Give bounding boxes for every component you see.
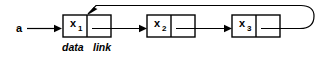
node-2-data-subscript: 2	[162, 24, 167, 33]
linked-list-diagram: a x 1 x 2	[0, 0, 324, 57]
node-3: x 3	[232, 15, 280, 37]
head-pointer-label: a	[16, 22, 23, 34]
diagram-canvas: a x 1 x 2	[0, 0, 324, 57]
node-1-data-value: x	[70, 17, 77, 29]
node-1: x 1	[63, 15, 111, 37]
data-field-caption: data	[62, 41, 84, 53]
node-2: x 2	[147, 15, 195, 37]
node-3-data-value: x	[239, 17, 246, 29]
head-pointer-arrow	[27, 25, 62, 32]
node-1-data-subscript: 1	[78, 24, 83, 33]
node-3-data-subscript: 3	[247, 24, 252, 33]
node-2-data-value: x	[154, 17, 161, 29]
link-field-caption: link	[93, 41, 112, 53]
